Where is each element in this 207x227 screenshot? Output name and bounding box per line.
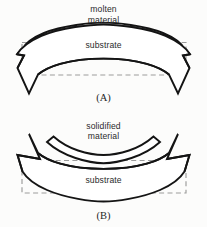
panel-a-tag: (A): [96, 92, 111, 104]
panel-a-molten-label-line1: molten: [90, 4, 117, 14]
panel-b-solidified-label-line2: material: [88, 131, 119, 141]
panel-a-group: molten material substrate (A): [17, 4, 190, 104]
panel-b-substrate-body: [18, 134, 190, 202]
panel-a-substrate-label: substrate: [85, 40, 121, 50]
panel-b-tag: (B): [97, 210, 112, 222]
panel-a-molten-label-line2: material: [88, 15, 119, 25]
panel-b-group: solidified material substrate (B): [18, 121, 190, 223]
figure-container: molten material substrate (A) solidified…: [0, 0, 207, 227]
panel-b-substrate-label: substrate: [85, 175, 121, 185]
diagram-svg: molten material substrate (A) solidified…: [0, 0, 207, 227]
panel-b-solidified-label-line1: solidified: [86, 121, 121, 131]
